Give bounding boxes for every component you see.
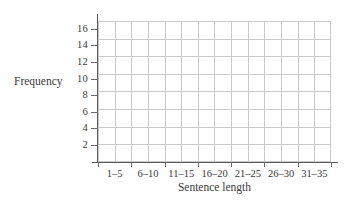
y-axis-tick-label: 12 xyxy=(58,57,88,68)
y-axis-tick xyxy=(91,112,97,113)
x-axis-tick xyxy=(131,162,132,167)
x-axis-tick xyxy=(264,162,265,167)
x-axis-tick xyxy=(165,162,166,167)
x-axis-line xyxy=(92,162,338,163)
y-axis-tick xyxy=(91,45,97,46)
x-axis-tick xyxy=(298,162,299,167)
y-axis-tick xyxy=(91,95,97,96)
x-axis-tick xyxy=(198,162,199,167)
y-axis-tick-label: 14 xyxy=(58,40,88,51)
y-axis-tick-label: 8 xyxy=(58,90,88,101)
x-axis-tick-label: 31–35 xyxy=(291,168,337,179)
y-axis-tick-label: 4 xyxy=(58,123,88,134)
y-axis-tick xyxy=(91,29,97,30)
y-axis-tick xyxy=(91,62,97,63)
y-axis-tick-label: 16 xyxy=(58,24,88,35)
y-axis-tick xyxy=(91,145,97,146)
y-axis-tick xyxy=(91,128,97,129)
y-axis-tick-label: 6 xyxy=(58,107,88,118)
histogram-figure: 246810121416 1–56–1011–1516–2021–2526–30… xyxy=(0,0,358,204)
plot-area xyxy=(98,21,331,162)
y-axis-tick xyxy=(91,79,97,80)
y-axis-tick-label: 2 xyxy=(58,140,88,151)
x-axis-tick xyxy=(98,162,99,167)
x-axis-title: Sentence length xyxy=(98,181,331,194)
x-axis-tick xyxy=(231,162,232,167)
bars-layer xyxy=(98,21,331,162)
y-axis-title: Frequency xyxy=(14,75,86,88)
x-axis-tick xyxy=(331,162,332,167)
y-axis-line xyxy=(97,14,98,162)
